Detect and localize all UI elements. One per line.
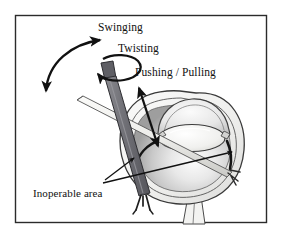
label-swinging: Swinging: [98, 21, 143, 34]
eye-surgery-motion-illustration: Swinging Twisting Pushing / Pulling Inop…: [0, 0, 284, 244]
figure-root: Swinging Twisting Pushing / Pulling Inop…: [0, 0, 284, 244]
label-twisting: Twisting: [118, 42, 159, 55]
label-inoperable-area: Inoperable area: [33, 187, 103, 199]
label-pushing-pulling: Pushing / Pulling: [135, 66, 216, 79]
